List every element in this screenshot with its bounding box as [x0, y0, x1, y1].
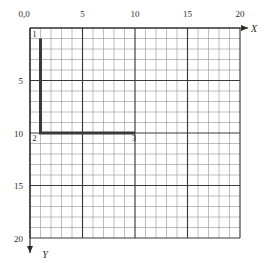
- y-axis-name: Y: [42, 249, 49, 260]
- y-tick-label: 10: [14, 129, 24, 139]
- y-tick-label: 20: [14, 234, 24, 244]
- vertex-label-2: 2: [33, 134, 37, 143]
- x-tick-labels: 5101520: [80, 9, 245, 19]
- figure-canvas: X Y 0,0 5101520 5101520 123: [0, 0, 264, 263]
- x-tick-label: 20: [236, 9, 246, 19]
- y-tick-label: 5: [19, 76, 24, 86]
- point-labels: 123: [33, 30, 137, 144]
- coordinate-grid-figure: X Y 0,0 5101520 5101520 123: [0, 0, 264, 263]
- vertex-label-3: 3: [132, 134, 136, 143]
- x-axis-name: X: [250, 23, 258, 34]
- y-tick-label: 15: [14, 181, 24, 191]
- data-polyline: [41, 39, 136, 134]
- x-axis-arrowhead: [241, 25, 248, 31]
- x-tick-label: 10: [131, 9, 141, 19]
- x-tick-label: 15: [183, 9, 193, 19]
- origin-label: 0,0: [18, 9, 30, 19]
- y-axis-arrowhead: [27, 246, 33, 253]
- y-tick-labels: 5101520: [14, 76, 24, 244]
- x-tick-label: 5: [80, 9, 85, 19]
- vertex-label-1: 1: [33, 30, 37, 39]
